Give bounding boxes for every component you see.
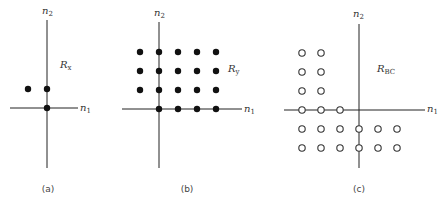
filled-dot-marker <box>156 68 162 74</box>
panel-a-axis-n2-label: n2 <box>42 6 53 18</box>
open-circle-marker <box>375 126 381 132</box>
filled-dot-marker <box>44 105 50 111</box>
panel-a-region-label: Rx <box>60 60 71 72</box>
figure-region-of-support: n2 n1 Rx (a) n2 n1 Ry (b) n2 n1 RBC (c) <box>0 0 443 204</box>
filled-dot-marker <box>137 49 143 55</box>
panel-b-caption: (b) <box>181 185 194 194</box>
open-circle-marker <box>299 50 305 56</box>
filled-dot-marker <box>137 87 143 93</box>
filled-dot-marker <box>25 86 31 92</box>
panel-c-region-label: RBC <box>377 64 395 76</box>
open-circle-marker <box>299 145 305 151</box>
lattice-diagrams <box>0 0 443 204</box>
open-circle-marker <box>337 126 343 132</box>
filled-dot-marker <box>175 106 181 112</box>
open-circle-marker <box>318 69 324 75</box>
filled-dot-marker <box>175 49 181 55</box>
panel-c-caption: (c) <box>353 185 365 194</box>
open-circle-marker <box>318 107 324 113</box>
open-circle-marker <box>299 69 305 75</box>
open-circle-marker <box>318 88 324 94</box>
panel-a-caption: (a) <box>42 185 55 194</box>
open-circle-marker <box>318 126 324 132</box>
panel-b-axis-n2-label: n2 <box>154 8 165 20</box>
panel-a <box>10 20 78 168</box>
open-circle-marker <box>337 107 343 113</box>
open-circle-marker <box>299 88 305 94</box>
open-circle-marker <box>318 50 324 56</box>
panel-c-axis-n1-label: n1 <box>427 104 438 116</box>
filled-dot-marker <box>194 106 200 112</box>
filled-dot-marker <box>194 68 200 74</box>
panel-a-axis-n1-label: n1 <box>80 103 91 115</box>
panel-b <box>122 22 242 168</box>
open-circle-marker <box>356 126 362 132</box>
panel-c-axis-n2-label: n2 <box>353 9 364 21</box>
filled-dot-marker <box>44 86 50 92</box>
filled-dot-marker <box>175 87 181 93</box>
open-circle-marker <box>337 145 343 151</box>
filled-dot-marker <box>213 68 219 74</box>
filled-dot-marker <box>213 87 219 93</box>
panel-c <box>284 24 425 168</box>
open-circle-marker <box>299 107 305 113</box>
open-circle-marker <box>299 126 305 132</box>
filled-dot-marker <box>213 106 219 112</box>
filled-dot-marker <box>156 87 162 93</box>
filled-dot-marker <box>194 49 200 55</box>
open-circle-marker <box>318 145 324 151</box>
panel-b-axis-n1-label: n1 <box>244 104 255 116</box>
open-circle-marker <box>375 145 381 151</box>
filled-dot-marker <box>156 106 162 112</box>
open-circle-marker <box>356 145 362 151</box>
filled-dot-marker <box>137 68 143 74</box>
open-circle-marker <box>394 126 400 132</box>
filled-dot-marker <box>175 68 181 74</box>
open-circle-marker <box>394 145 400 151</box>
filled-dot-marker <box>213 49 219 55</box>
filled-dot-marker <box>156 49 162 55</box>
panel-b-region-label: Ry <box>228 64 240 76</box>
filled-dot-marker <box>194 87 200 93</box>
